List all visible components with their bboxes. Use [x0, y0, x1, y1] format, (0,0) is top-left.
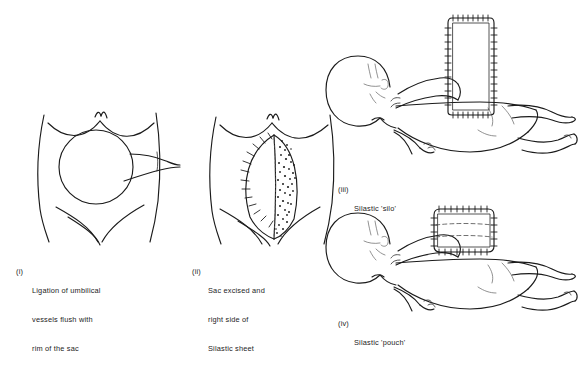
caption-line: Sac excised and [208, 286, 297, 296]
caption-line: Silastic sheet [208, 344, 297, 354]
surgical-figure: (i) Ligation of umbilical vessels flush … [0, 0, 580, 365]
caption-number-1: (i) [16, 267, 32, 365]
panel-ligation-of-umbilical-vessels [8, 105, 188, 250]
caption-number-2: (ii) [192, 267, 208, 365]
caption-line: rim of the sac [32, 344, 101, 354]
caption-line: Silastic 'pouch' [354, 338, 424, 348]
caption-number-4: (iv) [338, 319, 354, 365]
caption-panel-1: (i) Ligation of umbilical vessels flush … [16, 248, 186, 365]
caption-line: Silastic 'silo' [354, 204, 396, 214]
caption-line: right side of [208, 315, 297, 325]
torso-with-sac-illustration [8, 105, 188, 250]
caption-line: Ligation of umbilical [32, 286, 101, 296]
caption-number-3: (iii) [338, 185, 354, 233]
caption-line: vessels flush with [32, 315, 101, 325]
infant-with-silo-illustration [312, 2, 580, 160]
panel-silastic-silo [312, 2, 580, 160]
caption-panel-3: (iii) Silastic 'silo' [338, 166, 518, 252]
caption-panel-4: (iv) Silastic 'pouch' Note site of futur… [338, 300, 523, 365]
